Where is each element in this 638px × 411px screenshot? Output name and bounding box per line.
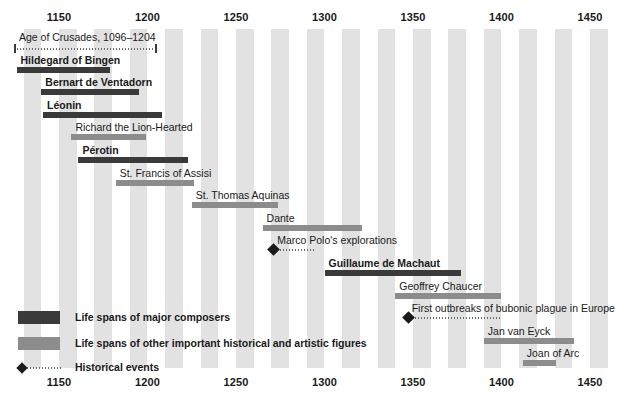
axis-tick-1200: 1200 (135, 11, 160, 23)
crusades-end-cap (155, 44, 157, 53)
lifespan-bar (71, 134, 145, 140)
timeline-row: Bernart de Ventadorn (0, 76, 638, 100)
axis-tick-1450: 1450 (578, 11, 603, 23)
row-label: Léonin (47, 99, 81, 111)
timeline-chart: 1150120012501300135014001450 Age of Crus… (0, 0, 638, 411)
lifespan-bar (395, 293, 501, 299)
timeline-row: St. Francis of Assisi (0, 167, 638, 191)
axis-tick-1300: 1300 (312, 11, 337, 23)
timeline-row: Age of Crusades, 1096–1204 (0, 31, 638, 55)
row-label: Guillaume de Machaut (329, 257, 440, 269)
legend-swatch-figure (18, 337, 60, 350)
axis-tick-1400: 1400 (489, 376, 514, 388)
axis-tick-1250: 1250 (224, 376, 249, 388)
axis-bottom: 1150120012501300135014001450 (0, 376, 638, 392)
lifespan-bar (78, 157, 188, 163)
lifespan-bar (116, 180, 194, 186)
legend-item: Life spans of major composers (18, 311, 618, 325)
axis-tick-1300: 1300 (312, 376, 337, 388)
axis-tick-1150: 1150 (47, 376, 71, 388)
row-label: Marco Polo's explorations (277, 234, 397, 246)
row-label: Hildegard of Bingen (21, 54, 121, 66)
legend-swatch-composer (18, 311, 60, 324)
timeline-row: Marco Polo's explorations (0, 234, 638, 258)
axis-tick-1250: 1250 (224, 11, 249, 23)
row-label: St. Thomas Aquinas (196, 189, 290, 201)
legend-label: Life spans of other important historical… (75, 337, 367, 350)
axis-tick-1400: 1400 (489, 11, 514, 23)
crusades-end-cap (14, 44, 16, 53)
lifespan-bar (17, 67, 111, 73)
timeline-row: Guillaume de Machaut (0, 257, 638, 281)
lifespan-bar (41, 89, 138, 95)
row-label: Pérotin (82, 144, 118, 156)
row-label: Age of Crusades, 1096–1204 (19, 31, 156, 43)
row-label: Richard the Lion-Hearted (75, 121, 192, 133)
crusades-dotted-line (14, 48, 155, 50)
lifespan-bar (325, 270, 461, 276)
timeline-row: Geoffrey Chaucer (0, 280, 638, 304)
axis-tick-1350: 1350 (401, 376, 426, 388)
axis-tick-1350: 1350 (401, 11, 426, 23)
timeline-row: Richard the Lion-Hearted (0, 121, 638, 145)
axis-tick-1450: 1450 (578, 376, 603, 388)
legend-item: Life spans of other important historical… (18, 337, 618, 351)
legend-label: Historical events (75, 361, 159, 374)
row-label: Dante (267, 212, 295, 224)
timeline-row: St. Thomas Aquinas (0, 189, 638, 213)
lifespan-bar (43, 112, 162, 118)
lifespan-bar (263, 225, 362, 231)
timeline-row: Dante (0, 212, 638, 236)
lifespan-bar (192, 202, 279, 208)
row-label: Jan van Eyck (488, 325, 550, 337)
timeline-row: Pérotin (0, 144, 638, 168)
legend-event-diamond-icon (16, 362, 27, 373)
row-label: St. Francis of Assisi (120, 167, 212, 179)
legend-label: Life spans of major composers (75, 311, 230, 324)
timeline-row: Léonin (0, 99, 638, 123)
timeline-row: Hildegard of Bingen (0, 54, 638, 78)
row-label: Geoffrey Chaucer (399, 280, 482, 292)
row-label: Bernart de Ventadorn (45, 76, 152, 88)
legend-item: Historical events (18, 361, 618, 375)
axis-tick-1150: 1150 (47, 11, 71, 23)
axis-tick-1200: 1200 (135, 376, 160, 388)
legend-event-dotted-line (27, 367, 63, 369)
event-dotted-line (277, 249, 315, 251)
axis-top: 1150120012501300135014001450 (0, 11, 638, 27)
